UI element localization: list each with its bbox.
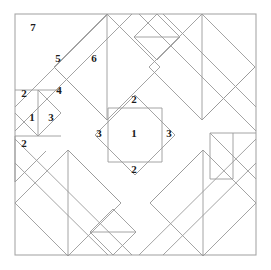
br-diamond-chord-upper (150, 150, 203, 203)
piece-label-2-center-top: 2 (131, 94, 137, 105)
piece-label-6: 6 (91, 53, 97, 64)
piece-label-7: 7 (30, 22, 36, 33)
piece-label-3-center-left: 3 (96, 128, 102, 139)
piece-label-2-upper-left: 2 (21, 88, 27, 99)
bottom-center-unit-group (90, 209, 136, 255)
piece-label-1-left: 1 (29, 112, 35, 123)
piece-label-3-center-right: 3 (166, 128, 172, 139)
sash-edge-ne-inner (139, 14, 256, 131)
bottom-right-quadrant-group (150, 150, 256, 256)
piece-label-2-center-bottom: 2 (131, 164, 137, 175)
piece-label-3-left-small: 3 (48, 112, 54, 123)
bl-diamond-chord-upper (68, 150, 121, 203)
lm-lower-left-triangle (15, 136, 46, 182)
piece-label-2-lower-left: 2 (21, 138, 27, 149)
piece-label-5: 5 (55, 53, 61, 64)
sash-edge-se-outer (163, 163, 256, 255)
sash-edge-ne-outer (163, 14, 256, 107)
sash-edge-sw-outer (15, 163, 108, 255)
top-right-quadrant-group (134, 14, 255, 120)
piece-label-4: 4 (56, 85, 62, 96)
tr-diamond-chord-lower (202, 67, 255, 120)
quilt-block-figure: 7 5 6 2 4 1 3 2 2 3 1 3 2 (0, 0, 271, 270)
piece-label-1-center: 1 (131, 128, 137, 139)
right-middle-unit-group (210, 133, 256, 179)
